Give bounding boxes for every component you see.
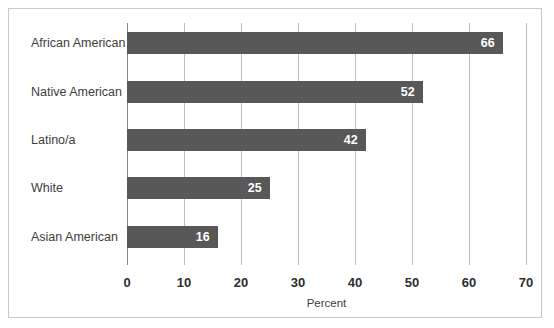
bar-row: 66 [127,32,526,54]
x-tick-label: 40 [335,275,375,290]
chart-figure: 6652422516 African AmericanNative Americ… [8,8,542,318]
bar [127,32,503,54]
bar-value-label: 52 [393,81,415,103]
x-tick-label: 10 [164,275,204,290]
x-tick-label: 60 [449,275,489,290]
category-label: Asian American [31,226,118,248]
bar [127,129,366,151]
x-tick-label: 70 [506,275,546,290]
bar-row: 16 [127,226,526,248]
bar-row: 52 [127,81,526,103]
x-tick-label: 30 [278,275,318,290]
category-label: Latino/a [31,129,75,151]
category-label: White [31,177,63,199]
bar-value-label: 66 [473,32,495,54]
x-tick-label: 0 [107,275,147,290]
bar-value-label: 25 [240,177,262,199]
bar [127,81,423,103]
plot-area: 6652422516 [127,23,526,265]
category-label: African American [31,32,125,54]
x-tick-label: 20 [221,275,261,290]
x-tick-label: 50 [392,275,432,290]
category-label: Native American [31,81,122,103]
bar-value-label: 42 [336,129,358,151]
bar-value-label: 16 [188,226,210,248]
bar-row: 25 [127,177,526,199]
x-axis-title: Percent [267,297,387,309]
gridline-70 [526,23,527,265]
bar-row: 42 [127,129,526,151]
